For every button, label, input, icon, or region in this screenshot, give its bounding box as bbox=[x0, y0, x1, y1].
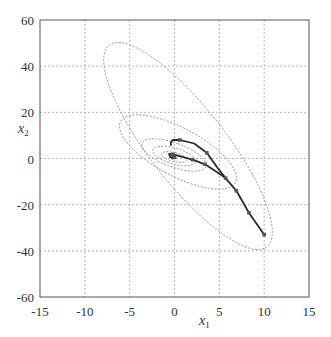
x-tick-label: 10 bbox=[258, 304, 271, 319]
x-tick-label: -15 bbox=[31, 304, 48, 319]
trajectory-line bbox=[171, 140, 264, 235]
y-tick-label: -20 bbox=[17, 198, 34, 213]
x-tick-label: 0 bbox=[171, 304, 178, 319]
y-tick-label: 40 bbox=[21, 59, 34, 74]
data-point-marker bbox=[205, 151, 209, 155]
trajectory-lines bbox=[169, 140, 264, 235]
x-tick-label: -10 bbox=[76, 304, 93, 319]
y-tick-label: 60 bbox=[21, 13, 34, 28]
x-axis-label: x1 bbox=[198, 313, 210, 330]
contour-trajectory-chart: -15-10-5051015 -60-40-200204060 x1 x2 bbox=[0, 0, 331, 337]
data-point-marker bbox=[203, 162, 207, 166]
y-tick-label: -60 bbox=[17, 290, 34, 305]
x-tick-label: 15 bbox=[303, 304, 316, 319]
y-axis-label: x2 bbox=[17, 121, 29, 138]
trajectory-markers bbox=[171, 138, 266, 236]
x-tick-label: 5 bbox=[216, 304, 223, 319]
y-axis-ticks: -60-40-200204060 bbox=[17, 13, 34, 305]
x-tick-label: -5 bbox=[124, 304, 135, 319]
data-point-marker bbox=[178, 138, 182, 142]
data-point-marker bbox=[173, 156, 177, 160]
data-point-marker bbox=[247, 211, 251, 215]
y-tick-label: -40 bbox=[17, 244, 34, 259]
y-tick-label: 0 bbox=[28, 152, 35, 167]
data-point-marker bbox=[191, 158, 195, 162]
y-tick-label: 20 bbox=[21, 105, 34, 120]
data-point-marker bbox=[235, 189, 239, 193]
data-point-marker bbox=[262, 233, 266, 237]
data-point-marker bbox=[224, 176, 228, 180]
x-axis-ticks: -15-10-5051015 bbox=[31, 304, 315, 319]
